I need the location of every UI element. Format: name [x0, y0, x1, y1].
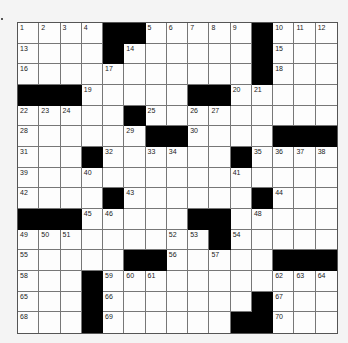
grid-cell[interactable]	[61, 168, 82, 189]
grid-cell[interactable]: 57	[209, 250, 230, 271]
grid-cell[interactable]: 12	[316, 23, 337, 44]
grid-cell[interactable]: 52	[167, 230, 188, 251]
grid-cell[interactable]	[294, 106, 315, 127]
grid-cell[interactable]	[188, 312, 209, 333]
grid-cell[interactable]: 70	[273, 312, 294, 333]
grid-cell[interactable]: 4	[82, 23, 103, 44]
grid-cell[interactable]: 6	[167, 23, 188, 44]
grid-cell[interactable]	[103, 168, 124, 189]
grid-cell[interactable]: 38	[316, 147, 337, 168]
grid-cell[interactable]	[231, 106, 252, 127]
grid-cell[interactable]: 42	[18, 188, 39, 209]
grid-cell[interactable]	[124, 168, 145, 189]
grid-cell[interactable]: 15	[273, 44, 294, 65]
grid-cell[interactable]	[39, 126, 60, 147]
grid-cell[interactable]	[273, 106, 294, 127]
grid-cell[interactable]: 30	[188, 126, 209, 147]
grid-cell[interactable]: 59	[103, 271, 124, 292]
grid-cell[interactable]: 7	[188, 23, 209, 44]
grid-cell[interactable]	[252, 106, 273, 127]
grid-cell[interactable]	[231, 64, 252, 85]
grid-cell[interactable]	[294, 168, 315, 189]
grid-cell[interactable]	[294, 209, 315, 230]
grid-cell[interactable]	[124, 85, 145, 106]
grid-cell[interactable]	[82, 250, 103, 271]
grid-cell[interactable]: 48	[252, 209, 273, 230]
grid-cell[interactable]	[82, 230, 103, 251]
grid-cell[interactable]: 24	[61, 106, 82, 127]
grid-cell[interactable]: 22	[18, 106, 39, 127]
grid-cell[interactable]	[188, 188, 209, 209]
grid-cell[interactable]	[124, 147, 145, 168]
grid-cell[interactable]	[146, 44, 167, 65]
grid-cell[interactable]	[61, 126, 82, 147]
grid-cell[interactable]: 32	[103, 147, 124, 168]
grid-cell[interactable]: 56	[167, 250, 188, 271]
grid-cell[interactable]	[294, 230, 315, 251]
grid-cell[interactable]: 34	[167, 147, 188, 168]
grid-cell[interactable]	[273, 85, 294, 106]
grid-cell[interactable]: 1	[18, 23, 39, 44]
grid-cell[interactable]: 66	[103, 292, 124, 313]
grid-cell[interactable]	[61, 292, 82, 313]
grid-cell[interactable]	[167, 168, 188, 189]
grid-cell[interactable]	[167, 292, 188, 313]
grid-cell[interactable]	[146, 230, 167, 251]
grid-cell[interactable]	[39, 64, 60, 85]
grid-cell[interactable]	[273, 230, 294, 251]
grid-cell[interactable]: 55	[18, 250, 39, 271]
grid-cell[interactable]: 61	[146, 271, 167, 292]
grid-cell[interactable]	[316, 85, 337, 106]
grid-cell[interactable]	[209, 188, 230, 209]
grid-cell[interactable]	[209, 44, 230, 65]
grid-cell[interactable]: 50	[39, 230, 60, 251]
grid-cell[interactable]	[103, 230, 124, 251]
grid-cell[interactable]	[209, 312, 230, 333]
grid-cell[interactable]	[188, 271, 209, 292]
grid-cell[interactable]	[167, 188, 188, 209]
grid-cell[interactable]: 60	[124, 271, 145, 292]
grid-cell[interactable]	[316, 106, 337, 127]
grid-cell[interactable]	[294, 64, 315, 85]
grid-cell[interactable]	[167, 64, 188, 85]
grid-cell[interactable]: 10	[273, 23, 294, 44]
grid-cell[interactable]	[124, 209, 145, 230]
grid-cell[interactable]	[39, 44, 60, 65]
grid-cell[interactable]	[82, 126, 103, 147]
grid-cell[interactable]: 65	[18, 292, 39, 313]
grid-cell[interactable]	[124, 312, 145, 333]
grid-cell[interactable]	[209, 292, 230, 313]
grid-cell[interactable]: 26	[188, 106, 209, 127]
grid-cell[interactable]	[61, 271, 82, 292]
grid-cell[interactable]: 63	[294, 271, 315, 292]
grid-cell[interactable]	[61, 44, 82, 65]
grid-cell[interactable]	[231, 209, 252, 230]
grid-cell[interactable]	[146, 312, 167, 333]
grid-cell[interactable]: 19	[82, 85, 103, 106]
grid-cell[interactable]	[273, 168, 294, 189]
grid-cell[interactable]: 18	[273, 64, 294, 85]
grid-cell[interactable]	[39, 147, 60, 168]
grid-cell[interactable]	[231, 292, 252, 313]
grid-cell[interactable]	[231, 271, 252, 292]
grid-cell[interactable]	[294, 312, 315, 333]
grid-cell[interactable]: 31	[18, 147, 39, 168]
grid-cell[interactable]: 27	[209, 106, 230, 127]
grid-cell[interactable]	[146, 188, 167, 209]
grid-cell[interactable]	[188, 168, 209, 189]
grid-cell[interactable]	[82, 44, 103, 65]
grid-cell[interactable]: 69	[103, 312, 124, 333]
grid-cell[interactable]	[167, 85, 188, 106]
grid-cell[interactable]	[39, 312, 60, 333]
grid-cell[interactable]	[124, 230, 145, 251]
grid-cell[interactable]: 29	[124, 126, 145, 147]
grid-cell[interactable]	[146, 168, 167, 189]
grid-cell[interactable]	[209, 64, 230, 85]
grid-cell[interactable]	[294, 188, 315, 209]
grid-cell[interactable]	[39, 168, 60, 189]
grid-cell[interactable]	[39, 271, 60, 292]
grid-cell[interactable]: 51	[61, 230, 82, 251]
grid-cell[interactable]	[188, 64, 209, 85]
grid-cell[interactable]	[167, 209, 188, 230]
grid-cell[interactable]: 25	[146, 106, 167, 127]
